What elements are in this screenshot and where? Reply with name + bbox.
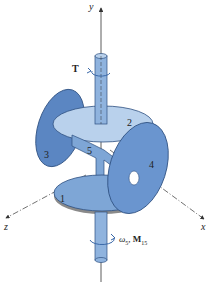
part-label-3: 3 bbox=[44, 150, 49, 160]
moment-subscript: 15 bbox=[141, 240, 147, 246]
x-axis-label: x bbox=[201, 222, 205, 232]
mechanism-diagram: y z x 2 3 4 5 1 T ω5, M15 bbox=[0, 0, 212, 291]
part-label-5: 5 bbox=[87, 146, 92, 156]
part-label-1: 1 bbox=[60, 194, 65, 204]
diagram-graphic bbox=[0, 0, 212, 291]
y-axis-label: y bbox=[89, 2, 93, 12]
part-label-2: 2 bbox=[127, 118, 132, 128]
part-label-4: 4 bbox=[149, 160, 154, 170]
z-axis-label: z bbox=[4, 222, 8, 232]
bottom-shaft bbox=[95, 212, 107, 263]
disk-4-hole bbox=[129, 171, 139, 185]
torque-label: T bbox=[72, 64, 79, 74]
bottom-annotation: ω5, M15 bbox=[119, 235, 147, 246]
top-shaft bbox=[95, 54, 107, 125]
